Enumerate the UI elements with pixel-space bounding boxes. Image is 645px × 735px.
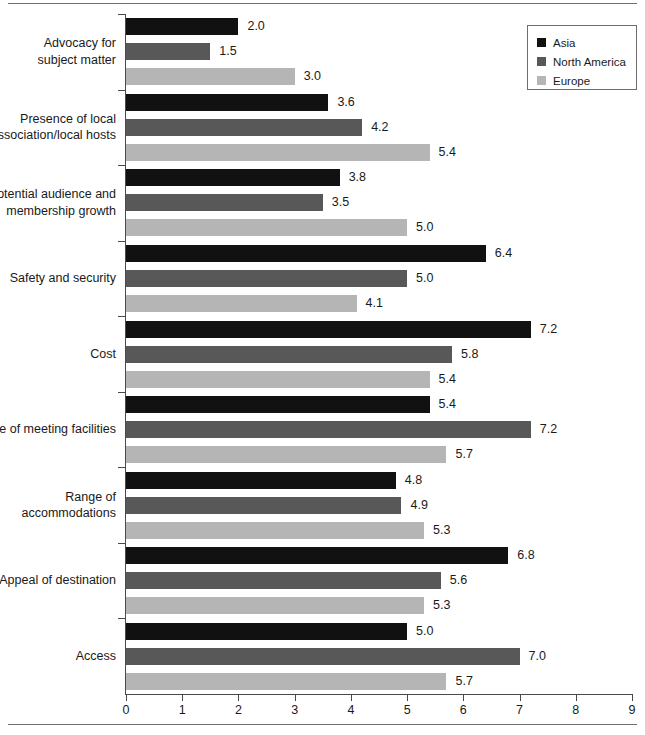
legend-swatch-icon bbox=[537, 76, 546, 85]
x-axis-tick bbox=[463, 694, 464, 701]
bar-value-label: 5.0 bbox=[416, 270, 433, 287]
bar-europe bbox=[126, 597, 424, 614]
x-axis-tick-label: 8 bbox=[561, 703, 591, 717]
category-label: Advocacy forsubject matter bbox=[0, 35, 125, 68]
bar-north-america bbox=[126, 421, 531, 438]
bar-value-label: 5.3 bbox=[433, 522, 450, 539]
bar-europe bbox=[126, 522, 424, 539]
category-label: Potential audience andmembership growth bbox=[0, 186, 125, 219]
x-axis-tick bbox=[238, 694, 239, 701]
bar-value-label: 3.8 bbox=[349, 169, 366, 186]
x-axis-tick-label: 7 bbox=[505, 703, 535, 717]
category-label-line: Appeal of destination bbox=[0, 572, 116, 589]
bar-asia bbox=[126, 245, 486, 262]
category-label-line: subject matter bbox=[0, 52, 116, 69]
y-axis-tick bbox=[118, 543, 125, 544]
x-axis-tick-label: 6 bbox=[448, 703, 478, 717]
bar-chart-plot-area: 0123456789 Advocacy forsubject matterPre… bbox=[0, 0, 645, 735]
x-axis-tick-label: 1 bbox=[167, 703, 197, 717]
bar-value-label: 1.5 bbox=[219, 43, 236, 60]
y-axis-tick bbox=[118, 14, 125, 15]
bar-asia bbox=[126, 396, 430, 413]
bar-value-label: 4.1 bbox=[366, 295, 383, 312]
legend-swatch-icon bbox=[537, 38, 546, 47]
y-axis-tick bbox=[118, 467, 125, 468]
x-axis-tick bbox=[295, 694, 296, 701]
bar-value-label: 6.8 bbox=[517, 547, 534, 564]
bar-north-america bbox=[126, 194, 323, 211]
bar-value-label: 6.4 bbox=[495, 245, 512, 262]
category-label: Range ofaccommodations bbox=[0, 489, 125, 522]
legend-item-label: Europe bbox=[553, 75, 590, 87]
y-axis-tick bbox=[118, 90, 125, 91]
x-axis-tick-label: 2 bbox=[223, 703, 253, 717]
bar-value-label: 3.0 bbox=[304, 68, 321, 85]
bar-north-america bbox=[126, 497, 401, 514]
bar-value-label: 5.0 bbox=[416, 623, 433, 640]
category-label: Appeal of destination bbox=[0, 572, 125, 589]
chart-legend: AsiaNorth AmericaEurope bbox=[527, 25, 637, 90]
bar-europe bbox=[126, 295, 357, 312]
x-axis-tick bbox=[126, 694, 127, 701]
bar-north-america bbox=[126, 346, 452, 363]
bar-value-label: 5.8 bbox=[461, 346, 478, 363]
bar-asia bbox=[126, 472, 396, 489]
x-axis-tick-label: 4 bbox=[336, 703, 366, 717]
legend-item-asia[interactable]: Asia bbox=[537, 34, 636, 51]
bar-asia bbox=[126, 321, 531, 338]
category-label-line: Access bbox=[0, 648, 116, 665]
category-label-line: membership growth bbox=[0, 203, 116, 220]
legend-swatch-icon bbox=[537, 57, 546, 66]
bar-value-label: 4.9 bbox=[410, 497, 427, 514]
x-axis-tick bbox=[407, 694, 408, 701]
bar-value-label: 3.5 bbox=[332, 194, 349, 211]
bar-europe bbox=[126, 219, 407, 236]
bar-north-america bbox=[126, 572, 441, 589]
bar-europe bbox=[126, 371, 430, 388]
category-label: Presence of localassociation/local hosts bbox=[0, 111, 125, 144]
bar-value-label: 5.3 bbox=[433, 597, 450, 614]
bar-north-america bbox=[126, 43, 210, 60]
category-label: Access bbox=[0, 648, 125, 665]
x-axis-tick bbox=[632, 694, 633, 701]
category-label-line: Advocacy for bbox=[0, 35, 116, 52]
y-axis-tick bbox=[118, 618, 125, 619]
bar-north-america bbox=[126, 648, 520, 665]
legend-item-north-america[interactable]: North America bbox=[537, 53, 636, 70]
category-label-line: association/local hosts bbox=[0, 127, 116, 144]
bar-europe bbox=[126, 144, 430, 161]
bar-north-america bbox=[126, 270, 407, 287]
bar-europe bbox=[126, 446, 446, 463]
x-axis-tick-label: 3 bbox=[280, 703, 310, 717]
bar-asia bbox=[126, 623, 407, 640]
category-label-line: Range of bbox=[0, 489, 116, 506]
legend-item-label: Asia bbox=[553, 37, 575, 49]
bar-north-america bbox=[126, 119, 362, 136]
category-label-line: Potential audience and bbox=[0, 186, 116, 203]
category-label: Cost bbox=[0, 346, 125, 363]
bar-asia bbox=[126, 94, 328, 111]
y-axis-tick bbox=[118, 392, 125, 393]
y-axis-tick bbox=[118, 241, 125, 242]
category-label-line: Cost bbox=[0, 346, 116, 363]
x-axis-tick-label: 5 bbox=[392, 703, 422, 717]
x-axis-tick bbox=[182, 694, 183, 701]
bar-asia bbox=[126, 547, 508, 564]
bar-value-label: 5.4 bbox=[439, 144, 456, 161]
category-label-line: accommodations bbox=[0, 505, 116, 522]
legend-item-europe[interactable]: Europe bbox=[537, 72, 636, 89]
bar-value-label: 5.4 bbox=[439, 371, 456, 388]
bar-value-label: 2.0 bbox=[247, 18, 264, 35]
bar-asia bbox=[126, 18, 238, 35]
bar-asia bbox=[126, 169, 340, 186]
category-label: Safety and security bbox=[0, 270, 125, 287]
x-axis-line bbox=[125, 694, 632, 695]
bar-value-label: 7.0 bbox=[529, 648, 546, 665]
bar-value-label: 3.6 bbox=[337, 94, 354, 111]
bar-value-label: 7.2 bbox=[540, 321, 557, 338]
x-axis-tick-label: 9 bbox=[617, 703, 645, 717]
y-axis-tick bbox=[118, 165, 125, 166]
bar-europe bbox=[126, 673, 446, 690]
bar-value-label: 5.4 bbox=[439, 396, 456, 413]
x-axis-tick bbox=[576, 694, 577, 701]
